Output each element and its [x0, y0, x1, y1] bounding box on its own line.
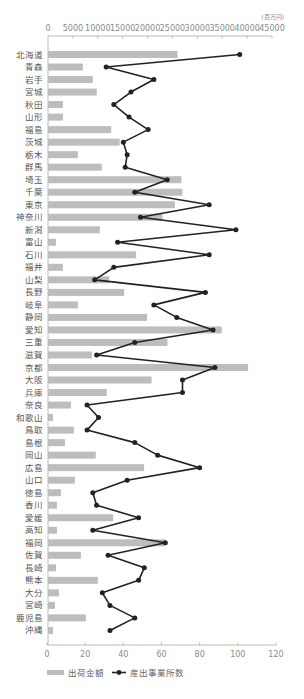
bottom-tick-label: 120: [268, 650, 283, 659]
line-marker: [142, 565, 147, 570]
bar: [48, 514, 113, 521]
category-label: 神奈川: [16, 212, 43, 222]
line-marker: [132, 340, 137, 345]
top-tick-label: 0: [45, 24, 50, 33]
line-marker: [163, 540, 168, 545]
legend-line-label: 産出事業所数: [130, 668, 184, 678]
bar: [48, 351, 92, 358]
category-label: 福井: [25, 262, 43, 272]
bar: [48, 577, 98, 584]
line-marker: [151, 302, 156, 307]
legend: 出荷金額 産出事業所数: [47, 668, 184, 678]
line-marker: [85, 428, 90, 433]
bar: [48, 226, 100, 233]
bottom-axis: 020406080100120: [44, 643, 283, 660]
bar: [48, 414, 53, 421]
line-marker: [106, 553, 111, 558]
bar: [48, 89, 97, 96]
category-label: 千葉: [25, 187, 43, 197]
category-label: 東京: [25, 200, 43, 210]
bar: [48, 489, 61, 496]
category-label: 長崎: [25, 563, 43, 573]
bar: [48, 389, 107, 396]
bar: [48, 377, 152, 384]
category-label: 石川: [25, 250, 43, 260]
bar: [48, 314, 147, 321]
line-marker: [107, 628, 112, 633]
line-marker: [90, 528, 95, 533]
top-tick-label: 5000: [63, 24, 83, 33]
line-marker: [100, 590, 105, 595]
top-tick-label: 35000: [209, 24, 234, 33]
line-marker: [207, 202, 212, 207]
line-marker: [121, 140, 126, 145]
category-label: 沖縄: [25, 625, 43, 635]
bar: [48, 552, 81, 559]
category-label: 山梨: [25, 275, 43, 285]
line-marker: [132, 615, 137, 620]
bar: [48, 589, 59, 596]
bar-line-chart: 0500010000150002000025000300003500040000…: [0, 0, 304, 699]
bar: [48, 627, 53, 634]
line-marker: [136, 515, 141, 520]
line-marker: [211, 327, 216, 332]
line-marker: [94, 503, 99, 508]
category-label: 長野: [25, 287, 43, 297]
bar: [48, 189, 182, 196]
line-marker: [132, 190, 137, 195]
line-marker: [104, 65, 109, 70]
unit-label: (百万円): [261, 13, 284, 21]
bar: [48, 502, 57, 509]
category-label: 奈良: [25, 400, 43, 410]
bar: [48, 564, 56, 571]
category-label: 群馬: [25, 162, 43, 172]
line-marker: [96, 415, 101, 420]
bar: [48, 164, 102, 171]
bar: [48, 51, 177, 58]
line-marker: [180, 390, 185, 395]
line-marker: [90, 490, 95, 495]
category-labels: 北海道青森岩手宮城秋田山形福島茨城栃木群馬埼玉千葉東京神奈川新潟富山石川福井山梨…: [16, 50, 43, 636]
category-label: 愛知: [25, 325, 43, 335]
line-marker: [151, 77, 156, 82]
category-label: 愛媛: [25, 513, 43, 523]
line-marker: [94, 352, 99, 357]
category-label: 熊本: [25, 575, 43, 585]
bar: [48, 602, 55, 609]
bottom-tick-label: 20: [80, 650, 90, 659]
category-label: 栃木: [25, 150, 43, 160]
category-label: 島根: [25, 438, 43, 448]
category-label: 静岡: [25, 312, 43, 322]
line-marker: [237, 52, 242, 57]
category-label: 青森: [25, 62, 43, 72]
bar: [48, 527, 57, 534]
line-marker: [180, 378, 185, 383]
bar: [48, 101, 63, 108]
category-label: 京都: [25, 363, 43, 373]
category-label: 徳島: [25, 488, 43, 498]
category-label: 兵庫: [25, 388, 43, 398]
top-tick-label: 30000: [185, 24, 210, 33]
line-marker: [165, 177, 170, 182]
bar: [48, 126, 111, 133]
top-tick-label: 45000: [259, 24, 284, 33]
line-marker: [207, 252, 212, 257]
category-label: 岡山: [25, 450, 43, 460]
bottom-tick-label: 0: [44, 650, 49, 659]
line-marker: [132, 440, 137, 445]
bar: [48, 452, 96, 459]
category-label: 大分: [25, 588, 43, 598]
line-marker: [174, 315, 179, 320]
category-label: 大阪: [25, 375, 43, 385]
bar: [48, 151, 78, 158]
top-tick-label: 15000: [110, 24, 135, 33]
category-label: 宮崎: [25, 600, 43, 610]
line-marker: [146, 127, 151, 132]
bottom-tick-label: 100: [230, 650, 245, 659]
line-marker: [127, 115, 132, 120]
line-marker: [85, 403, 90, 408]
top-tick-label: 25000: [160, 24, 185, 33]
line-marker: [233, 227, 238, 232]
category-label: 新潟: [25, 225, 43, 235]
bar: [48, 76, 93, 83]
